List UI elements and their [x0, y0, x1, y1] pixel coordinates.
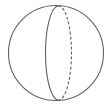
sphere-diagram-canvas: Sphere with great circle Outline of a sp… [0, 0, 111, 111]
sphere-diagram: Sphere with great circle Outline of a sp… [0, 0, 111, 111]
figure-background [0, 0, 111, 111]
